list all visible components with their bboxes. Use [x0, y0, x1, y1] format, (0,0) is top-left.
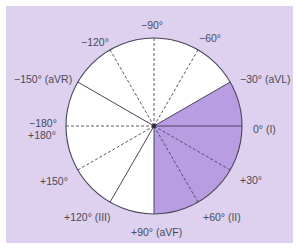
- label-neg120: −120°: [81, 37, 109, 48]
- label-pos60-lead-ii: +60° (II): [203, 212, 241, 223]
- label-neg150-avr: −150° (aVR): [14, 74, 72, 85]
- label-neg90: −90°: [141, 20, 163, 31]
- label-pos30: +30°: [240, 175, 262, 186]
- label-pos150: +150°: [40, 176, 68, 187]
- label-neg60: −60°: [199, 33, 221, 44]
- label-pos180: +180°: [28, 130, 56, 141]
- label-pos90-avf: +90° (aVF): [131, 227, 182, 238]
- label-neg180: −180°: [29, 118, 57, 129]
- label-pos120-lead-iii: +120° (III): [64, 212, 111, 223]
- label-0-lead-i: 0° (I): [253, 124, 276, 135]
- label-neg30-avl: −30° (aVL): [240, 74, 291, 85]
- center-point: [152, 124, 156, 128]
